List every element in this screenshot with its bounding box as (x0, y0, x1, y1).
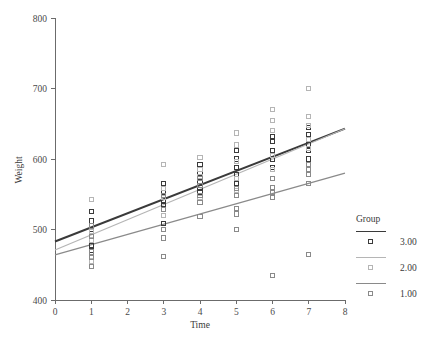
data-point-marker (307, 132, 311, 136)
data-point-marker (162, 227, 166, 231)
regression-lines (55, 129, 345, 255)
data-point-marker (89, 210, 93, 214)
data-point-marker (270, 148, 274, 152)
data-point-marker (307, 252, 311, 256)
data-point-marker (89, 249, 93, 253)
data-point-marker (270, 177, 274, 181)
data-point-marker (234, 148, 238, 152)
data-point-marker (234, 227, 238, 231)
data-point-marker (198, 215, 202, 219)
data-point-marker (198, 191, 202, 195)
data-point-marker (270, 185, 274, 189)
data-point-marker (270, 139, 274, 143)
y-tick-label: 400 (33, 296, 48, 306)
data-point-marker (307, 167, 311, 171)
data-point-marker (270, 108, 274, 112)
data-point-marker (270, 118, 274, 122)
data-point-marker (307, 86, 311, 90)
data-point-marker (234, 177, 238, 181)
data-point-marker (162, 213, 166, 217)
x-tick-label: 2 (125, 307, 130, 317)
data-point-marker (162, 187, 166, 191)
y-axis-title: Weight (14, 156, 24, 184)
data-point-marker (234, 206, 238, 210)
data-point-marker (162, 191, 166, 195)
legend-label-2.00: 2.00 (400, 263, 417, 273)
data-point-marker (307, 163, 311, 167)
legend: Group3.002.001.00 (356, 214, 417, 299)
data-point-marker (270, 196, 274, 200)
legend-label-1.00: 1.00 (400, 289, 417, 299)
x-tick-label: 8 (343, 307, 348, 317)
x-tick-label: 6 (270, 307, 275, 317)
data-point-marker (234, 182, 238, 186)
x-tick-label: 1 (89, 307, 94, 317)
data-point-marker (162, 182, 166, 186)
legend-label-3.00: 3.00 (400, 237, 417, 247)
legend-marker-1.00 (368, 291, 373, 296)
legend-title: Group (356, 214, 381, 224)
data-point-marker (307, 157, 311, 161)
y-tick-label: 600 (33, 155, 48, 165)
data-point-marker (89, 197, 93, 201)
data-point-marker (89, 264, 93, 268)
data-point-marker (234, 131, 238, 135)
y-tick-label: 800 (33, 14, 48, 24)
data-point-marker (234, 194, 238, 198)
data-point-marker (89, 219, 93, 223)
data-point-marker (162, 254, 166, 258)
data-point-marker (234, 212, 238, 216)
x-tick-label: 0 (53, 307, 58, 317)
data-point-marker (270, 129, 274, 133)
plot-frame (55, 18, 345, 300)
data-point-marker (270, 134, 274, 138)
data-point-marker (198, 155, 202, 159)
x-tick-label: 5 (234, 307, 239, 317)
y-tick-label: 700 (33, 84, 48, 94)
data-point-marker (162, 227, 166, 231)
data-point-marker (162, 208, 166, 212)
data-point-marker (198, 179, 202, 183)
data-point-marker (162, 236, 166, 240)
data-point-marker (234, 160, 238, 164)
data-point-marker (307, 172, 311, 176)
legend-marker-2.00 (368, 265, 373, 270)
data-point-marker (198, 201, 202, 205)
data-point-marker (270, 273, 274, 277)
x-axis-title: Time (190, 320, 210, 330)
data-point-marker (234, 165, 238, 169)
x-axis-ticks: 012345678 (53, 300, 348, 317)
data-point-marker (89, 254, 93, 258)
y-axis-ticks: 400500600700800 (33, 14, 55, 306)
data-point-marker (198, 163, 202, 167)
data-point-marker (162, 163, 166, 167)
data-point-marker (89, 250, 93, 254)
axis-lines (55, 18, 345, 300)
data-point-marker (234, 157, 238, 161)
data-point-marker (307, 115, 311, 119)
y-tick-label: 500 (33, 225, 48, 235)
x-tick-label: 4 (198, 307, 203, 317)
plot-canvas: 400500600700800 012345678 Group3.002.001… (0, 0, 428, 341)
data-points (89, 86, 311, 277)
data-point-marker (234, 143, 238, 147)
scatter-plot-figure: 400500600700800 012345678 Group3.002.001… (0, 0, 428, 341)
x-tick-label: 3 (161, 307, 166, 317)
data-point-marker (307, 137, 311, 141)
legend-marker-3.00 (368, 239, 373, 244)
x-tick-label: 7 (306, 307, 311, 317)
